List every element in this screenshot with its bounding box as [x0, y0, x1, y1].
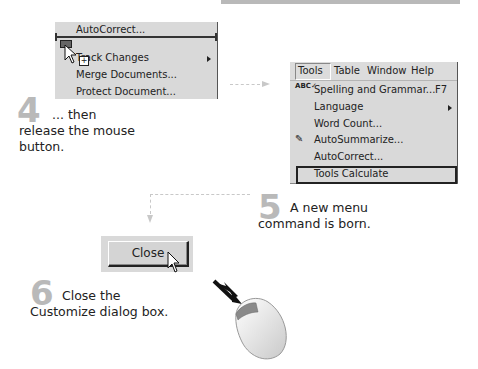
step-4-line2: release the mouse	[19, 123, 135, 138]
menu-item-merge-documents[interactable]: Merge Documents...	[76, 69, 177, 80]
menu-item-spelling-grammar[interactable]: Spelling and Grammar...	[314, 84, 435, 95]
submenu-arrow-icon	[448, 105, 452, 111]
step-4-line1: ... then	[52, 107, 96, 122]
submenu-arrow-icon	[207, 56, 211, 62]
menu-item-word-count[interactable]: Word Count...	[314, 118, 382, 129]
menubar-help[interactable]: Help	[411, 65, 434, 76]
menu-item-autocorrect[interactable]: AutoCorrect...	[76, 24, 145, 35]
menu-item-autocorrect[interactable]: AutoCorrect...	[314, 151, 383, 162]
copy-plus-icon: +	[79, 56, 89, 66]
step-6-line2: Customize dialog box.	[30, 304, 168, 319]
step-4-line3: button.	[19, 139, 64, 154]
menubar-window[interactable]: Window	[367, 65, 406, 76]
page-header-bar	[221, 0, 460, 4]
step-6-line1: Close the	[62, 288, 121, 303]
tools-menu: Tools Table Window Help ABC✓ Spelling an…	[290, 62, 458, 184]
menu-bar: Tools Table Window Help	[290, 62, 457, 81]
connector-arrow-icon	[147, 215, 153, 223]
insertion-marker	[57, 36, 215, 38]
menubar-tools[interactable]: Tools	[298, 65, 323, 76]
connector-line	[230, 84, 260, 85]
connector-arrow-icon	[262, 81, 270, 87]
mouse-pointer-icon	[64, 44, 80, 66]
connector-line	[150, 194, 250, 195]
step-5-line2: command is born.	[258, 216, 371, 231]
autosummarize-icon: ✎	[295, 133, 303, 144]
menu-item-tools-calculate[interactable]: Tools Calculate	[314, 168, 389, 179]
mouse-click-illustration-icon	[210, 272, 300, 362]
menu-item-autosummarize[interactable]: AutoSummarize...	[314, 134, 403, 145]
connector-line	[150, 194, 151, 214]
menu-item-protect-document[interactable]: Protect Document...	[76, 86, 176, 97]
shortcut-f7: F7	[435, 84, 447, 95]
step-5-line1: A new menu	[290, 200, 368, 215]
menubar-table[interactable]: Table	[334, 65, 360, 76]
menu-item-language[interactable]: Language	[314, 101, 363, 112]
mouse-pointer-icon	[167, 251, 183, 275]
step-number-4: 4	[17, 93, 41, 127]
